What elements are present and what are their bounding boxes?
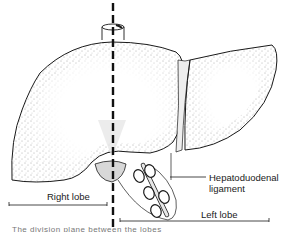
ligament-label: ligament (209, 183, 245, 194)
right-lobe-label: Right lobe (47, 191, 90, 202)
left-lobe-shape (185, 45, 277, 150)
left-lobe-label: Left lobe (201, 209, 237, 220)
figure-caption: The division plane between the lobes (12, 224, 162, 232)
left-lobe-bracket (120, 218, 269, 222)
right-lobe-bracket (9, 202, 107, 206)
hepatoduodenal-label: Hepatoduodenal (209, 172, 279, 183)
right-lobe-shape (12, 42, 184, 182)
hepatoduodenal-ligament (118, 163, 176, 220)
liver-diagram (0, 0, 281, 232)
